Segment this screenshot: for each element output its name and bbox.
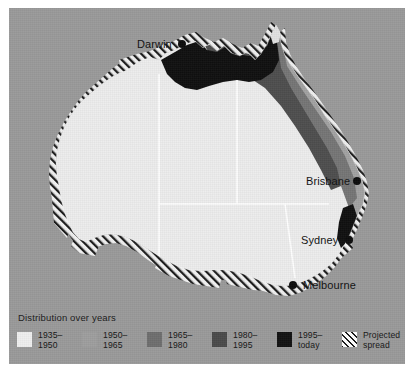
- city-dot-sydney: [345, 236, 353, 244]
- legend-label-line2: 1995: [233, 340, 253, 350]
- legend-label-line1: Projected: [363, 330, 400, 340]
- legend-swatch-1965-1980: [147, 332, 162, 347]
- legend-label-line1: 1950–: [103, 330, 127, 340]
- legend-label-1935-1950: 1935–1950: [38, 331, 62, 350]
- legend-label-1965-1980: 1965–1980: [168, 331, 192, 350]
- city-label-melbourne: Melbourne: [303, 279, 356, 291]
- city-label-sydney: Sydney: [301, 234, 338, 246]
- legend-label-1980-1995: 1980–1995: [233, 331, 257, 350]
- map-container: Darwin Brisbane Sydney Melbourne: [9, 8, 405, 308]
- city-label-darwin: Darwin: [137, 38, 172, 50]
- legend-label-line2: spread: [363, 340, 390, 350]
- legend-label-projected-spread: Projectedspread: [363, 331, 400, 350]
- legend: Distribution over years 1935–1950 1950–1…: [9, 308, 405, 364]
- legend-label-1950-1965: 1950–1965: [103, 331, 127, 350]
- legend-swatch-1995-today: [277, 332, 292, 347]
- legend-label-line2: today: [298, 340, 320, 350]
- legend-swatch-1950-1965: [82, 332, 97, 347]
- australia-map: [9, 8, 405, 308]
- city-dot-melbourne: [289, 281, 297, 289]
- legend-label-line2: 1950: [38, 340, 58, 350]
- figure-panel: Darwin Brisbane Sydney Melbourne Distrib…: [9, 8, 405, 364]
- legend-label-line1: 1980–: [233, 330, 257, 340]
- legend-swatch-projected-spread: [342, 332, 357, 347]
- city-dot-darwin: [178, 40, 186, 48]
- legend-label-line1: 1935–: [38, 330, 62, 340]
- legend-label-1995-today: 1995–today: [298, 331, 322, 350]
- legend-title: Distribution over years: [18, 312, 116, 323]
- legend-swatch-1935-1950: [17, 332, 32, 347]
- city-label-brisbane: Brisbane: [306, 175, 350, 187]
- legend-swatch-1980-1995: [212, 332, 227, 347]
- legend-label-line2: 1980: [168, 340, 188, 350]
- legend-label-line1: 1995–: [298, 330, 322, 340]
- city-dot-brisbane: [353, 177, 361, 185]
- legend-label-line2: 1965: [103, 340, 123, 350]
- legend-label-line1: 1965–: [168, 330, 192, 340]
